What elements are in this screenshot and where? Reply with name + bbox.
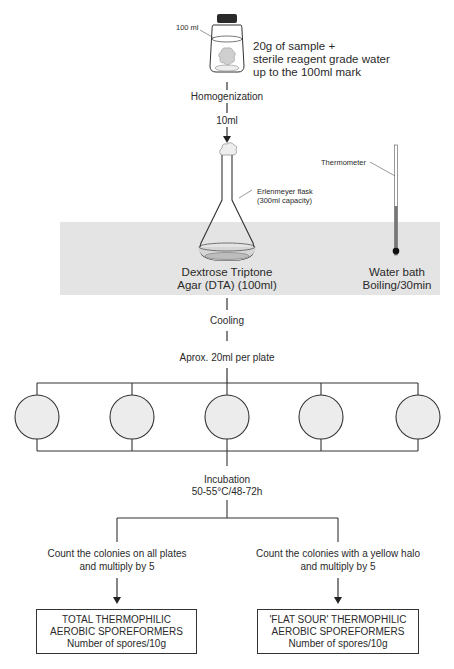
result-total-line-2: AEROBIC SPOREFORMERS xyxy=(37,626,196,638)
petri-plate-icon xyxy=(110,395,154,439)
result-total-line-3: Number of spores/10g xyxy=(37,638,196,650)
result-box-flat-sour: 'FLAT SOUR' THERMOPHILIC AEROBIC SPOREFO… xyxy=(257,609,419,654)
branch-2-instruction-line-2: and multiply by 5 xyxy=(300,561,375,573)
step-plating: Aprox. 20ml per plate xyxy=(179,352,274,364)
sample-desc-line-3: up to the 100ml mark xyxy=(253,66,361,79)
result-flat-sour-line-1: 'FLAT SOUR' THERMOPHILIC xyxy=(258,614,418,626)
result-box-total: TOTAL THERMOPHILIC AEROBIC SPOREFORMERS … xyxy=(36,609,197,654)
flask-callout-line-1: Erlenmeyer flask xyxy=(257,187,313,196)
sample-desc-line-2: sterile reagent grade water xyxy=(253,53,390,66)
incubation-line-2: 50-55°C/48-72h xyxy=(192,486,263,498)
branch-2-instruction-line-1: Count the colonies with a yellow halo xyxy=(256,548,420,560)
medium-line-1: Dextrose Triptone xyxy=(182,266,273,279)
result-flat-sour-line-2: AEROBIC SPOREFORMERS xyxy=(258,626,418,638)
water-bath-line-2: Boiling/30min xyxy=(362,279,431,292)
sample-bottle-icon xyxy=(200,14,244,72)
incubation-line-1: Incubation xyxy=(204,474,250,486)
petri-plate-icon xyxy=(205,395,249,439)
sample-desc-line-1: 20g of sample + xyxy=(253,40,335,53)
flask-callout-line-2: (300ml capacity) xyxy=(257,196,312,205)
step-transfer-volume: 10ml xyxy=(216,115,238,127)
result-total-line-1: TOTAL THERMOPHILIC xyxy=(37,614,196,626)
branch-1-instruction-line-2: and multiply by 5 xyxy=(79,561,154,573)
step-homogenization: Homogenization xyxy=(191,91,263,103)
water-bath-line-1: Water bath xyxy=(369,266,425,279)
petri-plate-icon xyxy=(299,395,343,439)
branch-1-instruction-line-1: Count the colonies on all plates xyxy=(48,548,187,560)
medium-line-2: Agar (DTA) (100ml) xyxy=(177,279,276,292)
petri-plate-icon xyxy=(396,395,440,439)
result-flat-sour-line-3: Number of spores/10g xyxy=(258,638,418,650)
thermometer-label: Thermometer xyxy=(321,158,366,167)
petri-plates xyxy=(15,383,440,451)
bottle-mark-label: 100 ml xyxy=(176,23,199,32)
petri-plate-icon xyxy=(15,395,59,439)
step-cooling: Cooling xyxy=(210,315,244,327)
